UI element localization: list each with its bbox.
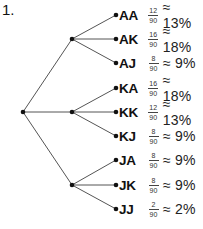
probability-fraction: 890 xyxy=(147,152,160,169)
denominator: 90 xyxy=(150,65,158,72)
leaf-edge xyxy=(72,39,116,63)
percent-approx: ≈ 9% xyxy=(163,177,196,193)
leaf-edge xyxy=(72,88,116,112)
outcome-label: KJ xyxy=(119,129,145,144)
denominator: 90 xyxy=(150,162,158,169)
numerator: 8 xyxy=(152,152,156,159)
fraction-bar xyxy=(149,185,159,186)
denominator: 90 xyxy=(149,41,157,48)
outcome-row: KJ890≈ 9% xyxy=(119,124,196,148)
fraction-bar xyxy=(149,209,159,210)
outcome-row: AK1690≈ 18% xyxy=(119,27,203,51)
numerator: 2 xyxy=(152,201,156,208)
outcome-label: AA xyxy=(119,8,145,23)
denominator: 90 xyxy=(149,17,157,24)
leaf-node xyxy=(114,134,119,139)
probability-fraction: 890 xyxy=(147,128,160,145)
fraction-bar xyxy=(149,160,159,161)
denominator: 90 xyxy=(149,114,157,121)
percent-approx: ≈ 9% xyxy=(163,55,196,71)
outcome-row: JK890≈ 9% xyxy=(119,173,196,197)
numerator: 8 xyxy=(152,177,156,184)
leaf-node xyxy=(114,61,119,66)
fraction-bar xyxy=(148,39,158,40)
outcome-row: KK1290≈ 13% xyxy=(119,100,203,124)
outcome-row: JA890≈ 9% xyxy=(119,148,196,172)
denominator: 90 xyxy=(149,90,157,97)
fraction-bar xyxy=(148,88,158,89)
branch-node xyxy=(70,183,75,188)
percent-approx: ≈ 2% xyxy=(163,201,196,217)
outcome-label: KK xyxy=(119,105,145,120)
leaf-node xyxy=(114,37,119,42)
probability-fraction: 1290 xyxy=(147,7,160,24)
fraction-bar xyxy=(149,63,159,64)
probability-fraction: 1690 xyxy=(147,31,160,48)
outcome-label: JJ xyxy=(119,202,145,217)
probability-fraction: 1690 xyxy=(147,80,160,97)
leaf-edge xyxy=(72,112,116,136)
fraction-bar xyxy=(149,136,159,137)
branch-node xyxy=(70,110,75,115)
probability-fraction: 1290 xyxy=(147,104,160,121)
leaf-node xyxy=(114,13,119,18)
outcome-label: JA xyxy=(119,153,145,168)
percent-approx: ≈ 9% xyxy=(163,128,196,144)
branch-node xyxy=(70,37,75,42)
numerator: 12 xyxy=(149,104,157,111)
outcome-label: JK xyxy=(119,178,145,193)
outcome-label: AJ xyxy=(119,56,145,71)
branch-edge xyxy=(23,112,72,185)
denominator: 90 xyxy=(150,211,158,218)
branch-edge xyxy=(23,39,72,112)
outcome-row: JJ290≈ 2% xyxy=(119,197,196,221)
denominator: 90 xyxy=(150,187,158,194)
fraction-bar xyxy=(148,15,158,16)
denominator: 90 xyxy=(150,138,158,145)
numerator: 8 xyxy=(152,128,156,135)
outcome-label: KA xyxy=(119,81,145,96)
probability-fraction: 290 xyxy=(147,201,160,218)
numerator: 16 xyxy=(149,80,157,87)
percent-approx: ≈ 9% xyxy=(163,152,196,168)
leaf-node xyxy=(114,207,119,212)
numerator: 8 xyxy=(152,55,156,62)
fraction-bar xyxy=(148,112,158,113)
root-node xyxy=(21,110,26,115)
numerator: 16 xyxy=(149,31,157,38)
outcome-label: AK xyxy=(119,32,145,47)
probability-fraction: 890 xyxy=(147,177,160,194)
leaf-edge xyxy=(72,160,116,185)
leaf-edge xyxy=(72,185,116,209)
leaf-node xyxy=(114,183,119,188)
leaf-node xyxy=(114,110,119,115)
probability-fraction: 890 xyxy=(147,55,160,72)
leaf-node xyxy=(114,158,119,163)
numerator: 12 xyxy=(149,7,157,14)
leaf-edge xyxy=(72,15,116,39)
leaf-node xyxy=(114,86,119,91)
